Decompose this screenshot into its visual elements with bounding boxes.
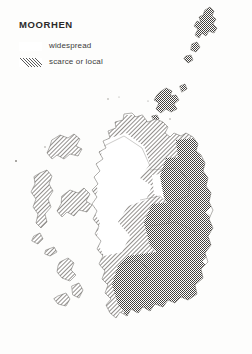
- region-inner-hebrides: [42, 185, 100, 310]
- legend-swatch-scarce-icon: [19, 58, 42, 67]
- legend-label-scarce-or-local: scarce or local: [49, 58, 103, 66]
- region-shetland: [180, 0, 230, 70]
- page-title: MOORHEN: [19, 20, 103, 30]
- map-legend: MOORHEN widespread scarce or local: [19, 20, 103, 74]
- region-mainland: [88, 113, 214, 336]
- legend-swatch-widespread-icon: [19, 42, 42, 51]
- map-page: MOORHEN widespread scarce or local: [0, 0, 252, 354]
- legend-label-widespread: widespread: [49, 42, 91, 50]
- legend-item-widespread: widespread: [19, 42, 103, 51]
- legend-item-scarce-or-local: scarce or local: [19, 58, 103, 67]
- region-outer-hebrides: [25, 128, 90, 250]
